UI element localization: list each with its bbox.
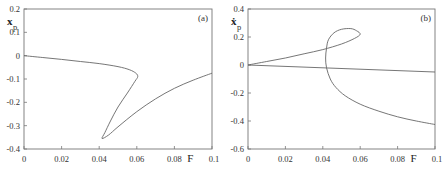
series-curve	[24, 56, 212, 139]
x-tick-label: 0.06	[129, 154, 144, 164]
figure: 00.020.040.060.080.1F0.20.10-0.1-0.2-0.3…	[0, 0, 444, 176]
y-tick-label: -0.2	[7, 97, 20, 107]
y-axis-label-subscript: p	[237, 22, 241, 32]
y-tick-label: 0	[240, 60, 244, 70]
x-tick-label: 0.08	[390, 154, 405, 164]
chart-panel-b: 00.020.040.060.080.1F0.40.20-0.2-0.4-0.6…	[231, 4, 443, 164]
y-tick-label: 0	[16, 51, 20, 61]
x-tick-label: 0.04	[315, 154, 331, 164]
y-tick-label: -0.4	[7, 144, 21, 154]
x-tick-label: 0.06	[353, 154, 368, 164]
x-tick-label: 0	[246, 154, 250, 164]
chart-panel-a: 00.020.040.060.080.1F0.20.10-0.1-0.2-0.3…	[7, 4, 220, 164]
plot-frame	[248, 9, 435, 149]
x-tick-label: 0.08	[167, 154, 182, 164]
y-tick-label: -0.3	[7, 121, 20, 131]
y-tick-label: 0.2	[233, 32, 244, 42]
x-tick-label: 0.1	[432, 154, 443, 164]
x-tick-label: 0.04	[92, 154, 108, 164]
y-tick-label: -0.4	[231, 116, 245, 126]
x-tick-label: 0	[22, 154, 26, 164]
x-tick-label: 0.02	[54, 154, 69, 164]
x-tick-label: 0.02	[278, 154, 293, 164]
x-tick-label: 0.1	[209, 154, 220, 164]
y-tick-label: 0.2	[9, 4, 20, 14]
panel-label: (b)	[421, 13, 432, 23]
plot-frame	[24, 9, 212, 149]
y-axis-label-subscript: p	[13, 22, 17, 32]
series-curve	[248, 29, 435, 125]
y-tick-label: -0.1	[7, 74, 20, 84]
y-tick-label: -0.6	[231, 144, 244, 154]
x-axis-label: F	[410, 152, 416, 164]
panel-label: (a)	[198, 13, 208, 23]
y-tick-label: -0.2	[231, 88, 244, 98]
series-curve	[248, 65, 435, 72]
y-tick-label: 0.4	[233, 4, 244, 14]
x-axis-label: F	[187, 152, 193, 164]
